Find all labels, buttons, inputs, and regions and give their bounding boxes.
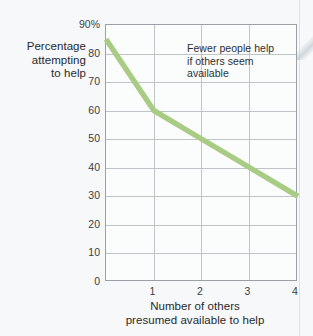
annotation-line-3: available bbox=[187, 67, 299, 80]
y-tick-60: 60 bbox=[64, 105, 100, 116]
x-axis-title: Number of others presumed available to h… bbox=[80, 300, 310, 327]
page-edge-rule bbox=[299, 0, 300, 336]
y-tick-0: 0 bbox=[64, 276, 100, 287]
annotation-line-2: if others seem bbox=[187, 55, 299, 68]
x-tick-1: 1 bbox=[138, 286, 168, 297]
x-axis-title-line-2: presumed available to help bbox=[80, 314, 310, 328]
y-tick-20: 20 bbox=[64, 219, 100, 230]
y-axis-tick-labels: 90% 80 70 60 50 40 30 20 10 0 bbox=[62, 24, 100, 281]
y-tick-10: 10 bbox=[64, 247, 100, 258]
x-tick-2: 2 bbox=[185, 286, 215, 297]
plot-area: Fewer people help if others seem availab… bbox=[105, 24, 297, 281]
x-tick-4: 4 bbox=[280, 286, 310, 297]
x-axis-tick-labels: 1 2 3 4 bbox=[105, 286, 297, 300]
chart-annotation: Fewer people help if others seem availab… bbox=[187, 42, 299, 80]
figure-container: Percentage attempting to help 90% 80 70 … bbox=[0, 0, 313, 336]
y-tick-50: 50 bbox=[64, 133, 100, 144]
x-tick-3: 3 bbox=[233, 286, 263, 297]
y-tick-30: 30 bbox=[64, 190, 100, 201]
x-axis-title-line-1: Number of others bbox=[80, 300, 310, 314]
y-tick-90: 90% bbox=[64, 19, 100, 30]
annotation-line-1: Fewer people help bbox=[187, 42, 299, 55]
y-tick-80: 80 bbox=[64, 48, 100, 59]
y-tick-70: 70 bbox=[64, 76, 100, 87]
y-tick-40: 40 bbox=[64, 162, 100, 173]
